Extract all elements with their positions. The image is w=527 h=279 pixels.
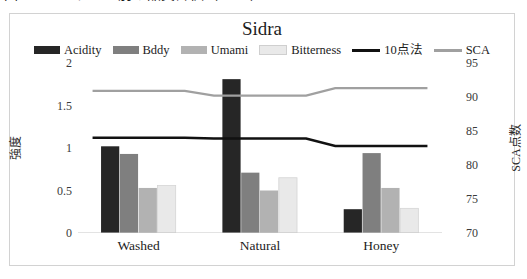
- y2-axis-tick: 85: [466, 125, 500, 137]
- legend-swatch-acidity: [34, 46, 60, 54]
- x-axis-category-label: Honey: [331, 238, 431, 253]
- plot-svg: [78, 63, 442, 233]
- y2-axis-tick: 80: [466, 159, 500, 171]
- legend-item-acidity[interactable]: Acidity: [34, 43, 102, 57]
- legend-item-sca[interactable]: SCA: [434, 43, 490, 57]
- legend-swatch-ten-point-method: [352, 49, 380, 52]
- figure-caption-strip: 図 11-13 ステージ別の品質評価（Sidra）: [0, 0, 527, 12]
- legend-swatch-bddy: [113, 46, 139, 54]
- y2-axis-tick: 70: [466, 227, 500, 239]
- legend-label-bitterness: Bitterness: [291, 43, 341, 57]
- legend-label-umami: Umami: [211, 43, 249, 57]
- y-axis-tick: 0.5: [32, 185, 72, 197]
- y-axis-tick: 1: [32, 142, 72, 154]
- y2-axis-title: SCA点数: [510, 124, 522, 171]
- chart-title: Sidra: [10, 18, 514, 40]
- legend-item-bddy[interactable]: Bddy: [113, 43, 170, 57]
- y-axis-tick: 2: [32, 57, 72, 69]
- y2-axis-tick: 90: [466, 91, 500, 103]
- legend-item-bitterness[interactable]: Bitterness: [259, 43, 341, 57]
- y2-axis-tick: 95: [466, 57, 500, 69]
- legend-label-acidity: Acidity: [64, 43, 102, 57]
- chart-frame: Sidra Acidity Bddy Umami Bitterness 10点法…: [9, 13, 515, 266]
- x-axis-category-label: Washed: [89, 238, 189, 253]
- legend-label-bddy: Bddy: [143, 43, 170, 57]
- legend-swatch-sca: [434, 49, 462, 52]
- chart-legend: Acidity Bddy Umami Bitterness 10点法 SCA: [10, 43, 514, 57]
- legend-swatch-bitterness: [259, 45, 287, 55]
- y2-axis-tick: 75: [466, 193, 500, 205]
- legend-item-umami[interactable]: Umami: [181, 43, 249, 57]
- y-axis-tick: 0: [32, 227, 72, 239]
- plot-area: [78, 63, 442, 233]
- x-axis-category-label: Natural: [210, 238, 310, 253]
- legend-item-ten-point-method[interactable]: 10点法: [352, 43, 423, 57]
- legend-label-ten-point-method: 10点法: [384, 43, 423, 57]
- figure-caption: 図 11-13 ステージ別の品質評価（Sidra）: [4, 0, 265, 2]
- y-axis-tick: 1.5: [32, 100, 72, 112]
- legend-label-sca: SCA: [466, 43, 490, 57]
- y-axis-title: 強度: [10, 136, 22, 160]
- legend-swatch-umami: [181, 46, 207, 54]
